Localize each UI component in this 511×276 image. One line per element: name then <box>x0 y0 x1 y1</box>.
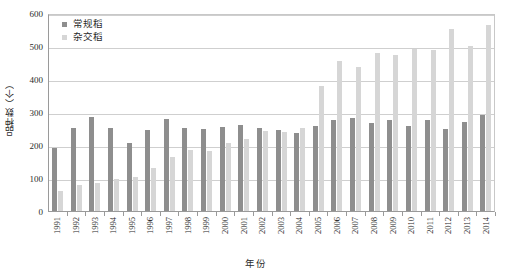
y-axis-title-text: 品种数（个） <box>2 79 15 136</box>
x-axis-tick-label: 2009 <box>389 217 398 234</box>
bar-conventional <box>164 119 169 211</box>
legend-label: 杂交稻 <box>73 32 103 42</box>
x-axis-tick-label: 2002 <box>258 217 267 234</box>
x-axis-tick-label: 1993 <box>91 217 100 234</box>
x-axis-tick <box>290 212 291 216</box>
x-axis-tick <box>402 212 403 216</box>
x-axis-tick <box>365 212 366 216</box>
bar-hybrid <box>431 50 436 211</box>
bar-group <box>105 15 124 211</box>
x-axis-tick-label: 1998 <box>184 217 193 234</box>
x-axis-tick <box>178 212 179 216</box>
legend-swatch-icon <box>62 22 67 27</box>
bar-group <box>403 15 422 211</box>
x-axis-tick <box>309 212 310 216</box>
bar-group <box>328 15 347 211</box>
bar-hybrid <box>486 25 491 211</box>
bar-conventional <box>238 125 243 211</box>
bar-hybrid <box>77 185 82 211</box>
y-axis-tick-label: 600 <box>30 9 44 19</box>
bar-hybrid <box>300 128 305 211</box>
bar-group <box>422 15 441 211</box>
bar-hybrid <box>58 191 63 211</box>
x-axis-tick-label: 2013 <box>463 217 472 234</box>
x-axis-tick-labels: 1991199219931994199519961997199819992000… <box>48 217 495 253</box>
bar-hybrid <box>449 29 454 211</box>
x-axis-tick-label: 2005 <box>314 217 323 234</box>
bar-group <box>235 15 254 211</box>
x-axis-tick <box>476 212 477 216</box>
legend-item-hybrid: 杂交稻 <box>62 32 103 42</box>
bar-conventional <box>52 148 57 211</box>
bar-group <box>459 15 478 211</box>
y-axis-tick-label: 200 <box>30 141 44 151</box>
x-axis-title: 年份 <box>0 256 511 270</box>
bar-conventional <box>462 122 467 211</box>
x-axis-tick-label: 1997 <box>165 217 174 234</box>
bar-group <box>366 15 385 211</box>
bars-layer <box>49 15 494 211</box>
x-axis-tick <box>67 212 68 216</box>
bar-hybrid <box>263 131 268 211</box>
bar-conventional <box>108 128 113 211</box>
bar-group <box>68 15 87 211</box>
bar-conventional <box>89 117 94 211</box>
bar-group <box>273 15 292 211</box>
x-axis-tick <box>234 212 235 216</box>
bar-hybrid <box>282 132 287 211</box>
y-axis-tick-label: 300 <box>30 108 44 118</box>
bar-hybrid <box>393 55 398 211</box>
x-axis-tick-label: 1991 <box>53 217 62 234</box>
bar-conventional <box>201 129 206 212</box>
bar-group <box>124 15 143 211</box>
bar-group <box>217 15 236 211</box>
x-axis-tick <box>327 212 328 216</box>
x-axis-tick <box>421 212 422 216</box>
bar-hybrid <box>375 53 380 211</box>
legend-swatch-icon <box>62 35 67 40</box>
bar-conventional <box>443 129 448 212</box>
x-axis-tick-label: 2006 <box>333 217 342 234</box>
x-axis-tick <box>85 212 86 216</box>
x-axis-tick-label: 2001 <box>240 217 249 234</box>
legend-label: 常规稻 <box>73 19 103 29</box>
x-axis-tick-label: 1992 <box>72 217 81 234</box>
bar-hybrid <box>188 150 193 211</box>
x-axis-tick-label: 2000 <box>221 217 230 234</box>
bar-conventional <box>387 120 392 211</box>
x-axis-tick-label: 2014 <box>482 217 491 234</box>
plot-area <box>48 14 495 212</box>
bar-chart: 品种数（个） 0100200300400500600 1991199219931… <box>0 0 511 276</box>
bar-group <box>310 15 329 211</box>
y-axis-tick-label: 0 <box>39 207 44 217</box>
bar-group <box>49 15 68 211</box>
bar-group <box>440 15 459 211</box>
x-axis-tick-label: 1999 <box>202 217 211 234</box>
bar-group <box>254 15 273 211</box>
x-axis-tick <box>346 212 347 216</box>
bar-hybrid <box>226 143 231 211</box>
bar-hybrid <box>151 168 156 211</box>
x-axis-tick <box>272 212 273 216</box>
bar-conventional <box>276 130 281 211</box>
bar-group <box>347 15 366 211</box>
x-axis-tick-label: 2012 <box>444 217 453 234</box>
bar-group <box>291 15 310 211</box>
bar-conventional <box>425 120 430 211</box>
bar-hybrid <box>412 49 417 211</box>
bar-hybrid <box>133 177 138 211</box>
x-axis-tick-label: 1994 <box>109 217 118 234</box>
bar-conventional <box>350 118 355 211</box>
x-axis-tick <box>104 212 105 216</box>
x-axis-tick-label: 2008 <box>370 217 379 234</box>
y-axis-tick-label: 500 <box>30 42 44 52</box>
bar-group <box>477 15 496 211</box>
bar-conventional <box>406 126 411 211</box>
x-axis-tick <box>439 212 440 216</box>
bar-group <box>179 15 198 211</box>
legend-item-conventional: 常规稻 <box>62 19 103 29</box>
x-axis-tick-label: 1996 <box>146 217 155 234</box>
x-axis-tick-label: 2004 <box>295 217 304 234</box>
bar-hybrid <box>319 86 324 211</box>
bar-hybrid <box>207 151 212 211</box>
